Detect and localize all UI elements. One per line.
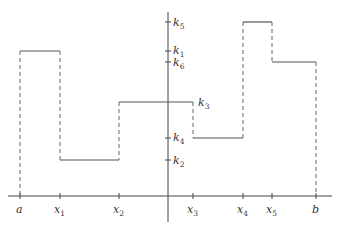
label-k2: k2 — [173, 154, 185, 169]
label-x1: x1 — [54, 203, 65, 218]
label-k3: k3 — [198, 96, 210, 111]
y-labels: k5 k1 k6 k3 k4 k2 — [173, 16, 210, 169]
label-x4: x4 — [237, 203, 248, 218]
label-x2: x2 — [113, 203, 124, 218]
label-k4: k4 — [173, 131, 185, 146]
label-a: a — [16, 203, 23, 216]
label-k5: k5 — [173, 16, 185, 31]
label-x3: x3 — [187, 203, 198, 218]
label-x5: x5 — [266, 203, 277, 218]
step-function-diagram: a x1 x2 x3 x4 x5 b k5 k1 k6 k3 k4 k2 — [0, 0, 342, 225]
label-b: b — [312, 203, 319, 216]
